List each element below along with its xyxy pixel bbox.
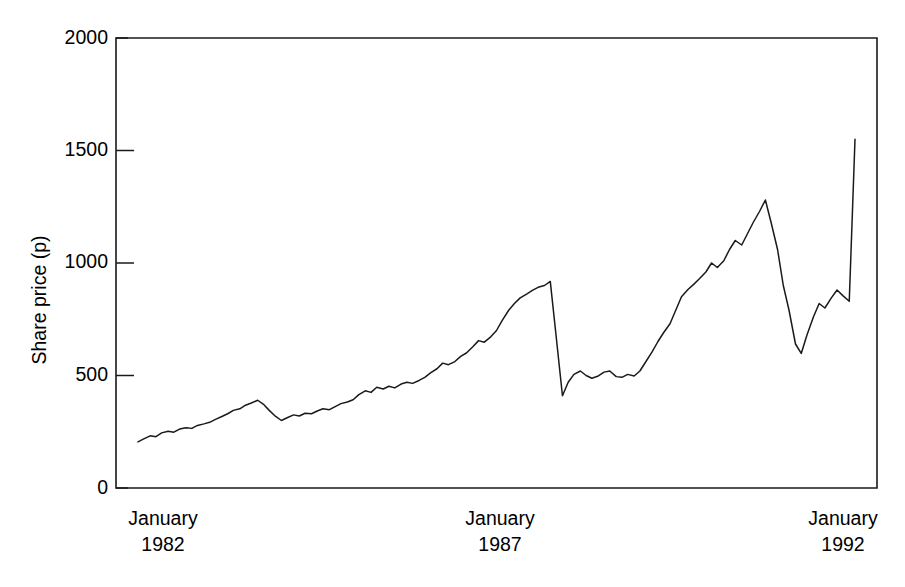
y-tick-label-0: 0 bbox=[97, 476, 108, 498]
chart-canvas: 2000 1500 1000 500 0 Share price (p) Jan… bbox=[0, 0, 905, 587]
x-tick-label-1992-month: January bbox=[808, 507, 878, 529]
y-axis-ticks bbox=[116, 38, 134, 488]
y-axis-title-group: Share price (p) bbox=[28, 236, 50, 365]
x-tick-label-1982-year: 1982 bbox=[141, 533, 184, 555]
y-tick-label-1000: 1000 bbox=[65, 250, 109, 272]
x-tick-label-1982-month: January bbox=[128, 507, 198, 529]
plot-frame bbox=[116, 38, 877, 488]
y-tick-label-1500: 1500 bbox=[65, 138, 109, 160]
share-price-line bbox=[138, 139, 855, 442]
y-axis-title: Share price (p) bbox=[28, 236, 50, 365]
y-axis-tick-labels: 2000 1500 1000 500 0 bbox=[65, 26, 109, 498]
share-price-chart-figure: 2000 1500 1000 500 0 Share price (p) Jan… bbox=[0, 0, 905, 587]
x-tick-label-1987-year: 1987 bbox=[478, 533, 521, 555]
y-tick-label-500: 500 bbox=[75, 363, 108, 385]
series-group bbox=[138, 139, 855, 442]
x-axis-tick-labels: January 1982 January 1987 January 1992 bbox=[128, 507, 878, 555]
x-tick-label-1992-year: 1992 bbox=[821, 533, 864, 555]
x-tick-label-1987-month: January bbox=[465, 507, 535, 529]
y-tick-label-2000: 2000 bbox=[65, 26, 109, 48]
